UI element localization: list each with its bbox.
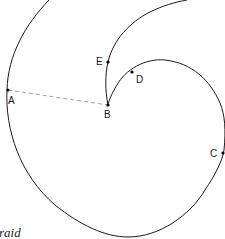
point-c-dot: [221, 151, 224, 154]
label-c: C: [210, 149, 217, 159]
point-d-dot: [130, 70, 133, 73]
label-a: A: [8, 96, 15, 106]
inner-curve: [106, 0, 187, 105]
dashed-segment-ab: [8, 90, 108, 105]
caption-fragment: raid: [0, 226, 21, 239]
point-a-dot: [6, 88, 9, 91]
label-e: E: [96, 57, 103, 67]
label-d: D: [136, 75, 143, 85]
point-e-dot: [106, 60, 109, 63]
label-b: B: [104, 110, 111, 120]
point-b-dot: [106, 103, 109, 106]
diagram-svg: [0, 0, 225, 239]
spiral-diagram: A B C D E raid: [0, 0, 225, 239]
outer-curve: [7, 0, 225, 237]
